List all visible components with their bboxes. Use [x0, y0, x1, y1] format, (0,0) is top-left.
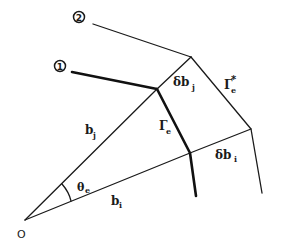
- interface-2-marker: 2: [74, 12, 85, 23]
- interface-2-label: 2: [76, 13, 82, 23]
- label-delta-b-i-sub: i: [234, 154, 237, 164]
- boundary-2-line: [93, 24, 191, 57]
- label-delta-b-i: δb i: [215, 148, 237, 164]
- label-b-i-sub: i: [119, 200, 122, 210]
- label-delta-b-j: δb j: [173, 75, 195, 92]
- label-gamma-e-star-sup: *: [231, 74, 237, 85]
- label-gamma-e-sub: e: [166, 126, 171, 136]
- label-b-i: b i: [111, 194, 122, 210]
- label-delta-b-j-base: δb: [173, 75, 189, 89]
- label-delta-b-j-sub: j: [191, 82, 195, 92]
- label-gamma-e: Γ e: [159, 119, 171, 136]
- ray-b-i: [25, 153, 190, 220]
- interface-1-marker: 1: [55, 61, 66, 72]
- label-b-j-sub: j: [92, 130, 96, 140]
- ray-b-j: [25, 89, 157, 220]
- label-theta-e-base: θ: [77, 181, 84, 194]
- angle-theta-e-arc: [62, 184, 71, 201]
- label-theta-e-sub: e: [85, 185, 90, 195]
- label-gamma-e-star: Γ e *: [224, 74, 237, 95]
- boundary-1-line: [72, 72, 157, 89]
- boundary-element-diagram: 2 1 O b j b i θ e δb j Γ e Γ e * δb i: [0, 0, 284, 251]
- origin-label: O: [17, 228, 26, 241]
- element-gamma-e: [157, 89, 196, 196]
- label-b-j: b j: [85, 123, 96, 140]
- label-delta-b-i-base: δb: [215, 148, 231, 162]
- interface-1-label: 1: [57, 62, 63, 72]
- label-gamma-e-star-sub: e: [231, 85, 236, 95]
- label-theta-e: θ e: [77, 181, 90, 195]
